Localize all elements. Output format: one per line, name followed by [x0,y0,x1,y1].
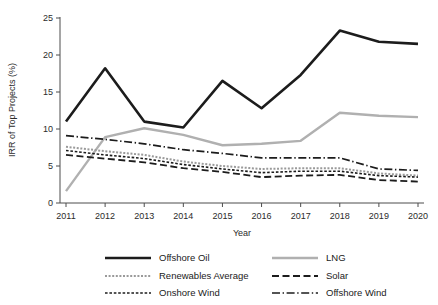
x-tick-label: 2011 [56,211,75,221]
x-axis-ticks: 2011201220132014201520162017201820192020 [56,203,428,221]
legend-label-lng: LNG [326,252,346,263]
x-tick-label: 2018 [330,211,350,221]
series-line-lng [66,113,418,191]
chart-legend: Offshore OilLNGRenewables AverageSolarOn… [105,252,387,298]
y-tick-label: 5 [48,161,53,171]
x-tick-label: 2017 [291,211,311,221]
x-tick-label: 2020 [408,211,428,221]
legend-label-onshore-wind: Onshore Wind [159,287,220,298]
legend-label-renewables-average: Renewables Average [159,270,249,281]
x-tick-label: 2013 [134,211,154,221]
y-tick-label: 20 [43,50,53,60]
y-tick-label: 0 [48,198,53,208]
x-axis-title: Year [233,228,251,238]
legend-label-solar: Solar [326,270,348,281]
irr-line-chart: 0510152025 20112012201320142015201620172… [0,0,438,305]
x-tick-label: 2012 [95,211,115,221]
y-tick-label: 10 [43,124,53,134]
y-tick-label: 25 [43,13,53,23]
legend-label-offshore-oil: Offshore Oil [159,252,210,263]
legend-label-offshore-wind: Offshore Wind [326,287,387,298]
x-tick-label: 2015 [212,211,232,221]
x-tick-label: 2016 [252,211,272,221]
chart-container: 0510152025 20112012201320142015201620172… [0,0,438,305]
y-axis-title: IRR of Top Projects (%) [7,63,17,157]
series-line-offshore-oil [66,31,418,128]
series-line-onshore-wind [66,150,418,177]
series-lines [66,31,418,192]
x-tick-label: 2014 [173,211,193,221]
y-tick-label: 15 [43,87,53,97]
series-line-offshore-wind [66,136,418,171]
x-tick-label: 2019 [369,211,389,221]
y-axis-ticks: 0510152025 [43,13,60,208]
